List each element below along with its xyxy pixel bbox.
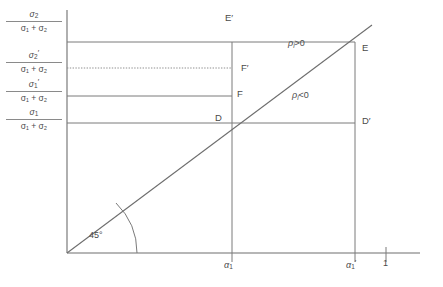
y-tick-label-sigma2: σ2 σ₁ + σ₂ — [6, 7, 62, 33]
point-label-F-prime: F′ — [241, 62, 249, 73]
y-tick-label-sigma2-prime: σ2′ σ₁ + σ₂ — [6, 48, 62, 74]
figure-canvas: σ2 σ₁ + σ₂ σ2′ σ₁ + σ₂ σ1′ σ₁ + σ₂ σ1 σ₁… — [0, 0, 443, 287]
x-tick-label-alpha1: α1 — [224, 258, 233, 270]
diagram-svg — [0, 0, 443, 287]
angle-label-45: 45° — [89, 230, 103, 240]
x-tick-label-alpha1-prime: α1′ — [346, 258, 356, 270]
x-tick-label-one: 1 — [383, 258, 388, 268]
annotation-rho-positive: ρi>0 — [288, 38, 305, 49]
point-label-E-prime: E′ — [225, 12, 233, 23]
point-label-F: F — [237, 88, 243, 99]
y-tick-label-sigma1: σ1 σ₁ + σ₂ — [6, 105, 62, 131]
y-tick-label-sigma1-prime: σ1′ σ₁ + σ₂ — [6, 77, 62, 103]
point-label-D-prime: D′ — [362, 115, 371, 126]
point-label-D: D — [215, 112, 222, 123]
angle-arc-45 — [116, 203, 137, 253]
point-label-E: E — [362, 42, 368, 53]
annotation-rho-negative: ρi<0 — [292, 90, 309, 101]
diagonal-45-line — [67, 25, 372, 253]
